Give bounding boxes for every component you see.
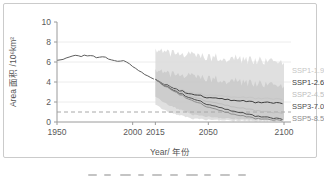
x-tick-label-2015: 2015 [146,127,165,137]
legend-ssp2-4.5: SSP2-4.5 [292,90,324,99]
caption-glyph-top [238,174,246,176]
x-tick-label-2050: 2050 [199,127,218,137]
caption-glyph-top [152,174,162,176]
y-tick-label-4: 4 [46,77,51,87]
legend-ssp1-2.6: SSP1-2.6 [292,78,324,87]
caption-glyph-top [138,174,144,176]
x-tick-label-2100: 2100 [275,127,294,137]
legend: SSP1-1.9 SSP1-2.6 SSP2-4.5 SSP3-7.0 SSP5… [292,66,324,123]
legend-ssp5-8.5: SSP5-8.5 [292,114,324,123]
x-tick-label-2000: 2000 [123,127,142,137]
y-tick-label-6: 6 [46,57,51,67]
y-tick-label-10: 10 [42,17,52,27]
caption-fragment [0,174,324,178]
caption-glyph-top [88,174,97,176]
y-tick-label-8: 8 [46,37,51,47]
figure: 024681019502000201520502100 Area 面积 /10⁶… [0,0,324,178]
x-tick-label-1950: 1950 [48,127,67,137]
x-axis-label: Year/ 年份 [150,147,190,157]
legend-ssp1-1.9: SSP1-1.9 [292,66,324,75]
caption-glyph-top [170,174,178,176]
legend-ssp3-7.0: SSP3-7.0 [292,102,324,111]
y-tick-label-2: 2 [46,97,51,107]
caption-glyph-top [220,174,230,176]
y-axis-label: Area 面积 /10⁶km² [8,37,18,107]
caption-glyph-top [120,174,131,176]
caption-glyph-top [104,174,111,176]
caption-glyph-top [186,174,198,176]
sea-ice-area-chart: 024681019502000201520502100 Area 面积 /10⁶… [0,0,324,178]
line-historical [57,55,154,79]
y-tick-label-0: 0 [46,117,51,127]
caption-glyph-top [204,174,211,176]
